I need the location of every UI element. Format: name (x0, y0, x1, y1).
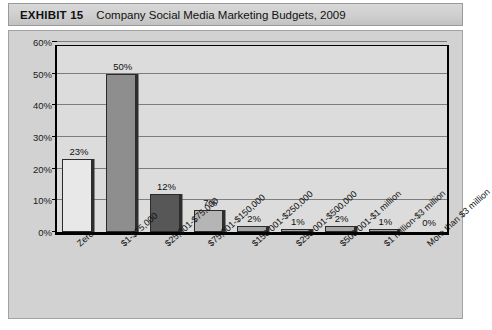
y-axis-tick-label: 50% (33, 68, 52, 79)
y-axis-tick-label: 20% (33, 163, 52, 174)
y-axis-tick-label: 40% (33, 100, 52, 111)
bar-value-label: 23% (57, 146, 101, 157)
bar-slot: 12% (145, 46, 189, 232)
bar[interactable] (62, 159, 92, 232)
y-axis-tick-mark (52, 41, 57, 42)
y-axis-tick-label: 10% (33, 195, 52, 206)
bar[interactable] (106, 74, 136, 232)
y-axis-tick-label: 0% (38, 227, 52, 238)
bar-slot: 50% (101, 46, 145, 232)
gridline (57, 41, 447, 42)
exhibit-title: Company Social Media Marketing Budgets, … (96, 9, 345, 21)
x-axis-labels: Zero$1-$25,000$25,001-$75,000$75,001-$15… (55, 237, 449, 321)
bar-value-label: 50% (101, 61, 145, 72)
exhibit-header: EXHIBIT 15 Company Social Media Marketin… (8, 3, 463, 26)
y-axis-tick-label: 60% (33, 37, 52, 48)
bar-value-label: 12% (145, 181, 189, 192)
chart-frame: 0%10%20%30%40%50%60% 23%50%12%7%2%1%2%1%… (8, 30, 463, 319)
exhibit-label: EXHIBIT 15 (20, 9, 83, 21)
bar-slot: 23% (57, 46, 101, 232)
y-axis-tick-label: 30% (33, 132, 52, 143)
